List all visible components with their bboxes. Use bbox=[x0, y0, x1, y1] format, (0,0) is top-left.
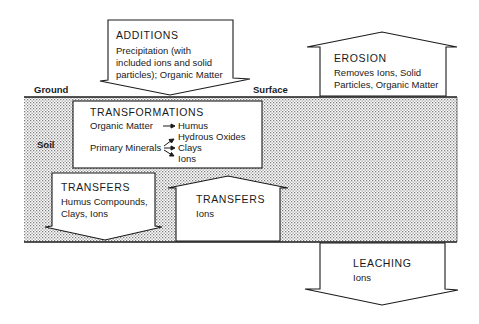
transfers-up-title: TRANSFERS bbox=[196, 193, 265, 205]
ions-product: Ions bbox=[178, 153, 196, 165]
additions-line: particles); Organic Matter bbox=[116, 69, 223, 81]
diagram-graphics bbox=[0, 0, 479, 324]
soil-processes-diagram: Ground Surface Soil ADDITIONS Precipitat… bbox=[0, 0, 479, 324]
transfers-up-arrow bbox=[168, 176, 288, 241]
primary-minerals-source: Primary Minerals bbox=[90, 142, 161, 154]
surface-label: Surface bbox=[253, 84, 288, 96]
transfers-up-line: Ions bbox=[196, 208, 214, 220]
leaching-title: LEACHING bbox=[353, 257, 411, 269]
transfers-down-title: TRANSFERS bbox=[61, 181, 130, 193]
transformations-title: TRANSFORMATIONS bbox=[90, 106, 204, 118]
additions-line: Precipitation (with bbox=[116, 45, 191, 57]
additions-line: included ions and solid bbox=[116, 57, 212, 69]
soil-label: Soil bbox=[37, 139, 54, 151]
erosion-title: EROSION bbox=[334, 52, 387, 64]
erosion-line: Particles, Organic Matter bbox=[334, 79, 439, 91]
leaching-line: Ions bbox=[353, 272, 371, 284]
leaching-arrow bbox=[305, 243, 458, 305]
transfers-down-line: Humus Compounds, bbox=[61, 196, 148, 208]
ground-label: Ground bbox=[34, 84, 68, 96]
transfers-down-line: Clays, Ions bbox=[61, 208, 108, 220]
organic-matter-source: Organic Matter bbox=[90, 120, 153, 132]
additions-title: ADDITIONS bbox=[116, 29, 179, 41]
erosion-line: Removes Ions, Solid bbox=[334, 67, 421, 79]
